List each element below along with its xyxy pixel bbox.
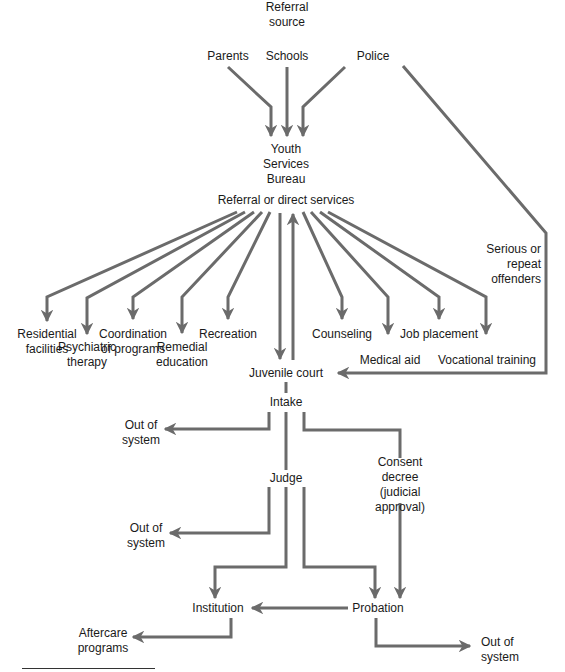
arrow-to-medical [311, 212, 388, 334]
footnote-rule [22, 668, 155, 669]
arrow-to-coordination [133, 212, 254, 319]
node-out-of-system-2: Out of system [127, 521, 165, 551]
node-parents: Parents [207, 49, 248, 64]
node-job-placement: Job placement [400, 327, 478, 342]
arrow-judge-to-out2 [170, 487, 269, 533]
arrow-judge-to-probation [304, 487, 375, 598]
node-intake: Intake [270, 395, 303, 410]
node-institution: Institution [192, 601, 243, 616]
node-out-of-system-3: Out of system [481, 635, 519, 665]
node-judge: Judge [270, 471, 303, 486]
arrow-to-recreation [228, 212, 270, 319]
arrow-institution-to-aftercare [133, 618, 231, 637]
node-police: Police [357, 49, 390, 64]
node-aftercare-programs: Aftercare programs [78, 626, 129, 656]
label-referral-source: Referral source [266, 0, 309, 30]
node-referral-direct-services: Referral or direct services [218, 193, 355, 208]
node-consent-decree: Consent decree (judicial approval) [375, 455, 425, 515]
arrow-judge-to-institution [215, 487, 286, 598]
node-out-of-system-1: Out of system [122, 418, 160, 448]
node-counseling: Counseling [312, 327, 372, 342]
node-schools: Schools [266, 49, 309, 64]
node-remedial-education: Remedial education [156, 340, 208, 370]
node-vocational-training: Vocational training [438, 353, 536, 368]
flowchart-connectors [0, 0, 565, 672]
arrow-probation-to-out3 [376, 618, 470, 646]
arrow-intake-to-consent [304, 412, 400, 458]
arrow-to-counseling [303, 212, 342, 319]
arrow-police-to-ysb [303, 67, 345, 136]
arrow-intake-to-out1 [165, 412, 269, 429]
node-probation: Probation [352, 601, 403, 616]
node-juvenile-court: Juvenile court [249, 366, 323, 381]
node-medical-aid: Medical aid [360, 353, 421, 368]
arrow-parents-to-ysb [228, 67, 271, 136]
arrow-to-job [320, 212, 439, 319]
node-recreation: Recreation [199, 327, 257, 342]
node-youth-services-bureau: Youth Services Bureau [263, 142, 309, 187]
label-serious-repeat-offenders: Serious or repeat offenders [486, 242, 541, 287]
